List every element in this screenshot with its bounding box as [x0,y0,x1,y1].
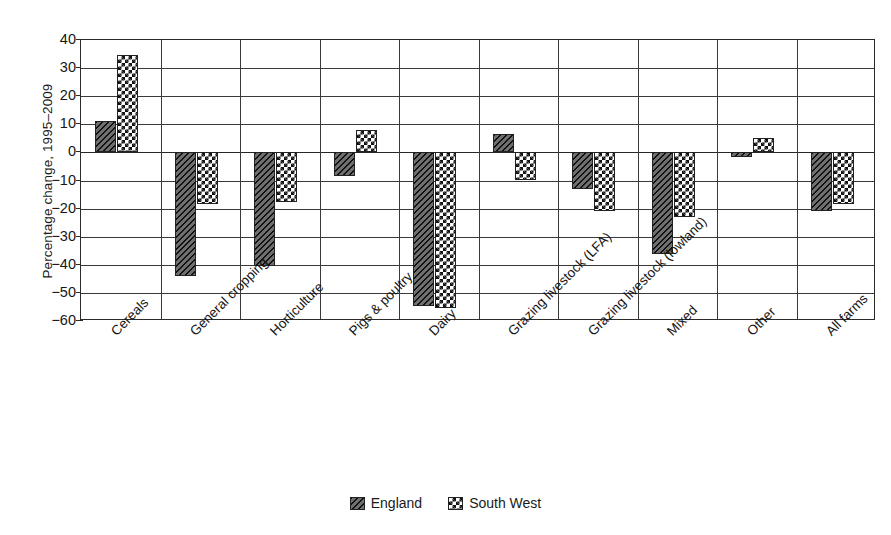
gridline-x-2 [240,40,241,319]
gridline-x-3 [320,40,321,319]
gridline-x-6 [558,40,559,319]
gridline-y--50 [81,293,874,294]
y-tick-label-20: 20 [32,87,76,103]
bar-england-other [731,152,752,156]
gridline-y-10 [81,124,874,125]
bar-south-west-all-farms [833,152,854,204]
y-tick-label-10: 10 [32,115,76,131]
legend-label-england: England [371,495,422,511]
y-tick-label-40: 40 [32,31,76,47]
gridline-x-5 [479,40,480,319]
y-tick-label--10: −10 [32,172,76,188]
legend-label-south-west: South West [469,495,541,511]
gridline-x-8 [717,40,718,319]
gridline-y-30 [81,68,874,69]
bar-south-west-horticulture [276,152,297,201]
bar-south-west-grazing-livestock-lowland- [594,152,615,211]
gridline-x-4 [399,40,400,319]
south-west-swatch-icon [448,497,463,510]
y-axis-tick-labels: 403020100−10−20−30−40−50−60 [24,39,76,320]
y-tick-label--50: −50 [32,284,76,300]
bar-england-cereals [95,121,116,152]
chart-figure: Percentage change, 1995–2009 403020100−1… [0,0,891,535]
legend-item-south-west: South West [448,495,541,511]
y-tick-label--60: −60 [32,312,76,328]
bar-england-pigs-poultry [334,152,355,176]
england-swatch-icon [350,497,365,510]
y-tick-label-30: 30 [32,59,76,75]
bar-south-west-pigs-poultry [356,130,377,152]
y-tick-mark--60 [76,320,83,321]
gridline-x-9 [797,40,798,319]
y-tick-label--30: −30 [32,228,76,244]
bar-south-west-grazing-livestock-lfa- [515,152,536,180]
y-tick-label--40: −40 [32,256,76,272]
gridline-x-1 [161,40,162,319]
bar-south-west-general-cropping [197,152,218,204]
bar-england-grazing-livestock-lowland- [572,152,593,189]
y-tick-label-0: 0 [32,143,76,159]
bar-england-horticulture [254,152,275,266]
gridline-y--40 [81,265,874,266]
bar-england-general-cropping [175,152,196,276]
chart-legend: England South West [0,495,891,511]
plot-area [80,39,875,320]
y-tick-label--20: −20 [32,200,76,216]
legend-item-england: England [350,495,422,511]
bar-south-west-mixed [674,152,695,217]
gridline-y--30 [81,237,874,238]
bar-england-all-farms [811,152,832,211]
bar-england-dairy [413,152,434,305]
bar-south-west-cereals [117,55,138,152]
bar-south-west-dairy [435,152,456,308]
gridline-x-7 [638,40,639,319]
bar-south-west-other [753,138,774,152]
bar-england-grazing-livestock-lfa- [493,134,514,152]
gridline-y-20 [81,96,874,97]
bar-england-mixed [652,152,673,253]
gridline-y--20 [81,209,874,210]
